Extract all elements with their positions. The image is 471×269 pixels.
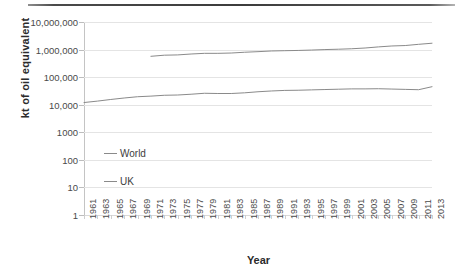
x-tick-label: 2003 (369, 199, 379, 219)
x-tick-label: 1993 (302, 199, 312, 219)
chart-figure: kt of oil equivalent 10,000,0001,000,000… (0, 0, 471, 269)
x-tick-label: 1971 (155, 199, 165, 219)
x-tick-label: 1973 (168, 199, 178, 219)
x-tick-label: 1991 (289, 199, 299, 219)
x-tick-label: 1997 (329, 199, 339, 219)
legend-swatch-world (104, 153, 117, 154)
x-tick-label: 1999 (342, 199, 352, 219)
y-tick-label-text: 10 (67, 182, 78, 193)
x-tick-label: 1983 (235, 199, 245, 219)
x-tick-label: 1961 (88, 199, 98, 219)
top-divider-rule (28, 4, 455, 6)
legend-label-world: World (120, 148, 146, 159)
legend-label-uk: UK (120, 176, 134, 187)
y-tick-label-text: 100,000 (44, 72, 78, 83)
x-tick-label: 2013 (436, 199, 446, 219)
series-lines (84, 22, 432, 215)
y-tick-label-text: 1000 (57, 127, 78, 138)
y-tick-label-text: 100 (62, 155, 78, 166)
y-axis-title: kt of oil equivalent (19, 0, 31, 148)
x-tick-label: 1967 (128, 199, 138, 219)
x-tick-label: 2005 (382, 199, 392, 219)
x-axis-title: Year (84, 254, 433, 266)
x-tick-label: 1979 (208, 199, 218, 219)
series-line-uk (84, 87, 432, 103)
x-tick-label: 1975 (182, 199, 192, 219)
x-axis-tick-labels: 1961196319651967196919711973197519771979… (84, 219, 433, 253)
x-tick-label: 1965 (115, 199, 125, 219)
y-tick-label-text: 10,000,000 (30, 17, 78, 28)
x-tick-label: 1995 (316, 199, 326, 219)
x-tick-label: 2009 (409, 199, 419, 219)
x-tick-label: 1985 (249, 199, 259, 219)
series-line-world (151, 43, 432, 56)
x-tick-label: 2007 (396, 199, 406, 219)
x-tick-label: 1963 (101, 199, 111, 219)
legend-swatch-uk (104, 181, 117, 182)
x-tick-label: 1989 (275, 199, 285, 219)
x-tick-label: 2001 (356, 199, 366, 219)
legend-item-uk: UK (104, 176, 134, 187)
y-tick-label-text: 10,000 (49, 100, 78, 111)
legend-item-world: World (104, 148, 146, 159)
x-tick-label: 2011 (423, 199, 433, 219)
y-tick-label-text: 1,000,000 (36, 45, 78, 56)
x-tick-label: 1987 (262, 199, 272, 219)
x-tick-label: 1969 (142, 199, 152, 219)
plot-area: World UK (84, 22, 432, 215)
x-tick-label: 1977 (195, 199, 205, 219)
x-tick-label: 1981 (222, 199, 232, 219)
y-tick-label-text: 1 (73, 210, 78, 221)
